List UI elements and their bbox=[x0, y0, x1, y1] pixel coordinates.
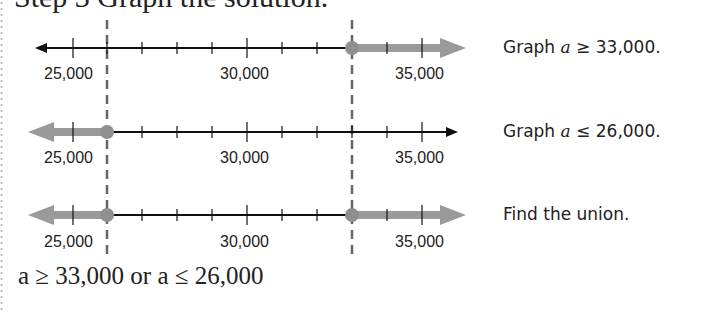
shaded-ray-right bbox=[352, 211, 442, 219]
svg-text:30,000: 30,000 bbox=[220, 233, 269, 250]
svg-text:35,000: 35,000 bbox=[395, 233, 444, 250]
arrow-left-icon bbox=[35, 43, 47, 53]
shaded-ray bbox=[50, 128, 107, 136]
closed-point-33000 bbox=[345, 41, 359, 55]
number-line-1: 25,000 30,000 35,000 bbox=[35, 38, 466, 82]
solution-statement: a ≥ 33,000 or a ≤ 26,000 bbox=[18, 262, 263, 290]
number-line-3: 25,000 30,000 35,000 bbox=[28, 205, 466, 250]
closed-point-26000 bbox=[100, 208, 114, 222]
arrow-left-icon bbox=[28, 122, 54, 142]
arrow-left-icon bbox=[28, 205, 54, 225]
svg-text:30,000: 30,000 bbox=[220, 65, 269, 82]
closed-point-26000 bbox=[100, 125, 114, 139]
step-label-1: Graph a ≥ 33,000. bbox=[503, 37, 661, 57]
shaded-ray bbox=[352, 44, 442, 52]
svg-text:25,000: 25,000 bbox=[44, 149, 93, 166]
svg-text:25,000: 25,000 bbox=[44, 65, 93, 82]
closed-point-33000 bbox=[345, 208, 359, 222]
svg-text:25,000: 25,000 bbox=[44, 233, 93, 250]
svg-text:35,000: 35,000 bbox=[395, 65, 444, 82]
arrow-right-icon bbox=[440, 205, 466, 225]
svg-text:30,000: 30,000 bbox=[220, 149, 269, 166]
step-label-3: Find the union. bbox=[503, 204, 629, 224]
svg-text:35,000: 35,000 bbox=[395, 149, 444, 166]
step-label-2: Graph a ≤ 26,000. bbox=[503, 121, 661, 141]
arrow-right-icon bbox=[446, 127, 458, 137]
arrow-right-icon bbox=[440, 38, 466, 58]
shaded-ray-left bbox=[50, 211, 107, 219]
number-line-2: 25,000 30,000 35,000 bbox=[28, 122, 458, 166]
